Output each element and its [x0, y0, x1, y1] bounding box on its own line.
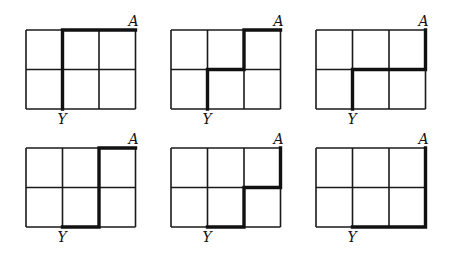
end-label: A: [417, 13, 429, 29]
end-label: A: [272, 131, 284, 147]
end-label: A: [417, 131, 429, 147]
start-label: Y: [58, 111, 69, 127]
start-label: Y: [58, 229, 69, 245]
start-label: Y: [348, 229, 359, 245]
end-label: A: [127, 13, 139, 29]
grid-panel-4: AY: [26, 131, 139, 245]
grid-panel-3: AY: [316, 13, 429, 127]
start-label: Y: [348, 111, 359, 127]
grid-panel-5: AY: [171, 131, 284, 245]
grid-panel-2: AY: [171, 13, 284, 127]
end-label: A: [127, 131, 139, 147]
grid-panel-6: AY: [316, 131, 429, 245]
end-label: A: [272, 13, 284, 29]
grid-panel-1: AY: [26, 13, 139, 127]
diagram-canvas: AYAYAYAYAYAY: [0, 0, 450, 258]
start-label: Y: [203, 229, 214, 245]
start-label: Y: [203, 111, 214, 127]
